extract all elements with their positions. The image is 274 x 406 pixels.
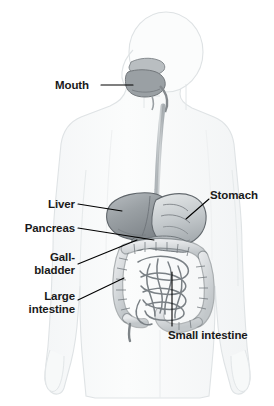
- label-pancreas: Pancreas: [0, 222, 75, 235]
- label-small-intestine: Small intestine: [168, 329, 248, 342]
- label-large-intestine-line1: Large: [0, 290, 75, 303]
- digestive-system-figure: Mouth Stomach Liver Pancreas Gall- bladd…: [0, 0, 274, 406]
- oral-cavity-shape: [125, 70, 165, 97]
- label-large-intestine-line2: intestine: [0, 303, 75, 316]
- label-gallbladder-line2: bladder: [0, 264, 75, 277]
- label-stomach: Stomach: [210, 189, 258, 202]
- appendix: [129, 324, 130, 341]
- label-mouth: Mouth: [55, 79, 89, 92]
- label-gallbladder-line1: Gall-: [0, 251, 75, 264]
- label-liver: Liver: [0, 198, 75, 211]
